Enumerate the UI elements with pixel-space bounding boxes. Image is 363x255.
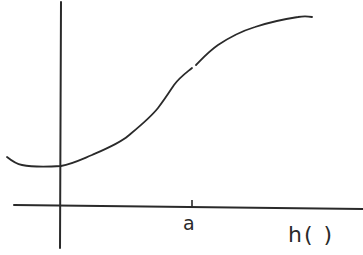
- x-axis-label: h( ): [288, 222, 334, 247]
- tick-label-a: a: [183, 212, 195, 234]
- function-curve-upper: [196, 16, 312, 65]
- function-curve: [7, 68, 192, 167]
- function-graph: [0, 0, 363, 255]
- y-axis: [60, 2, 61, 248]
- x-axis: [14, 205, 363, 209]
